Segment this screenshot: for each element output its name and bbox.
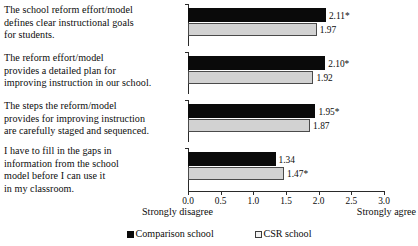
bar-value-comparison-2: 1.95* <box>318 107 339 117</box>
bar-csr-3 <box>188 167 284 180</box>
x-axis-tick-label-6: 3.0 <box>369 196 399 206</box>
legend-entry-csr-school: CSR school <box>255 228 311 240</box>
bar-csr-1 <box>188 71 313 84</box>
category-label-2-line-0: The steps the reform/model <box>4 100 184 113</box>
category-label-0-line-2: for students. <box>4 29 184 42</box>
x-axis-tick-label-2: 1.0 <box>238 196 268 206</box>
category-label-1-line-0: The reform effort/model <box>4 52 184 65</box>
category-label-2-line-2: are carefully staged and sequenced. <box>4 125 184 138</box>
category-label-2: The steps the reform/model provides for … <box>4 100 184 138</box>
y-axis-tick-1 <box>185 52 188 53</box>
category-label-3-line-3: in my classroom. <box>4 183 184 196</box>
category-label-3-line-0: I have to fill in the gaps in <box>4 145 184 158</box>
x-axis-tick-5 <box>351 191 352 195</box>
bar-value-comparison-1: 2.10* <box>328 59 349 69</box>
x-axis-tick-3 <box>286 191 287 195</box>
bar-value-comparison-3: 1.34 <box>279 155 295 165</box>
x-axis-tick-label-3: 1.5 <box>271 196 301 206</box>
x-axis-tick-0 <box>188 191 189 195</box>
x-axis-tick-label-5: 2.5 <box>336 196 366 206</box>
category-label-2-line-1: provides for improving instruction <box>4 113 184 126</box>
category-label-3: I have to fill in the gaps in informatio… <box>4 145 184 195</box>
bar-comparison-3 <box>188 152 276 166</box>
x-axis-tick-6 <box>384 191 385 195</box>
bar-comparison-2 <box>188 104 315 118</box>
y-axis-tick-3 <box>185 148 188 149</box>
plot-area: 2.11* 1.97 2.10* 1.92 1.95* 1.87 1.34 1.… <box>188 0 384 192</box>
legend-label-comparison-school: Comparison school <box>136 228 214 240</box>
category-label-0: The school reform effort/model defines c… <box>4 4 184 42</box>
scale-anchor-low-label: Strongly disagree <box>142 206 213 217</box>
x-axis-tick-2 <box>253 191 254 195</box>
x-axis-tick-label-1: 0.5 <box>206 196 236 206</box>
legend-swatch-icon-csr-school <box>255 231 262 238</box>
category-label-column: The school reform effort/model defines c… <box>4 0 184 192</box>
y-axis-tick-0 <box>185 4 188 5</box>
category-label-3-line-1: information from the school <box>4 158 184 171</box>
bar-value-csr-3: 1.47* <box>287 169 308 179</box>
category-label-1-line-1: provides a detailed plan for <box>4 65 184 78</box>
category-label-1-line-2: improving instruction in our school. <box>4 77 184 90</box>
legend-swatch-icon-comparison-school <box>127 231 134 238</box>
bar-value-csr-0: 1.97 <box>320 25 336 35</box>
category-label-3-line-2: model before I can use it <box>4 170 184 183</box>
legend-entry-comparison-school: Comparison school <box>127 228 214 240</box>
bar-comparison-1 <box>188 56 325 70</box>
bar-csr-0 <box>188 23 317 36</box>
bar-value-csr-1: 1.92 <box>316 73 332 83</box>
legend: Comparison school CSR school <box>0 228 418 244</box>
bar-value-comparison-0: 2.11* <box>329 11 350 21</box>
category-label-0-line-0: The school reform effort/model <box>4 4 184 17</box>
horizontal-bar-chart: The school reform effort/model defines c… <box>0 0 418 246</box>
category-label-1: The reform effort/model provides a detai… <box>4 52 184 90</box>
scale-anchor-high-label: Strongly agree <box>357 206 416 217</box>
x-axis-tick-1 <box>221 191 222 195</box>
legend-label-csr-school: CSR school <box>264 228 312 240</box>
x-axis-tick-label-0: 0.0 <box>173 196 203 206</box>
y-axis-tick-2 <box>185 100 188 101</box>
x-axis-tick-label-4: 2.0 <box>304 196 334 206</box>
x-axis-tick-4 <box>319 191 320 195</box>
bar-csr-2 <box>188 119 310 132</box>
bar-value-csr-2: 1.87 <box>313 121 329 131</box>
bar-comparison-0 <box>188 8 326 22</box>
category-label-0-line-1: defines clear instructional goals <box>4 17 184 30</box>
